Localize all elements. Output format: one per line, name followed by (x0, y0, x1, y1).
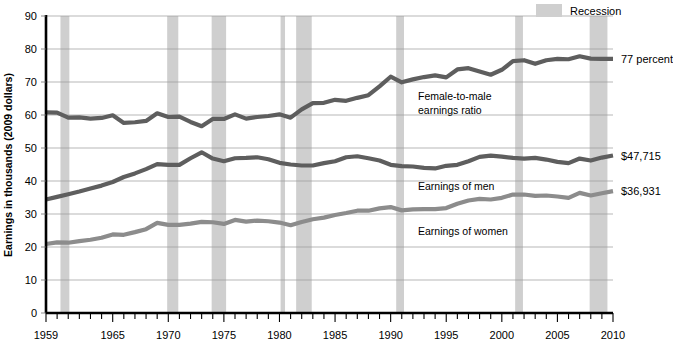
legend-label-recession: Recession (570, 5, 621, 17)
end-labels-group: 77 percent$47,715$36,931 (621, 53, 673, 197)
ratio-end-label: 77 percent (621, 53, 673, 65)
y-ticks-group: 0102030405060708090 (25, 10, 46, 319)
legend-group: Recession (536, 4, 621, 17)
y-tick-label: 80 (25, 43, 37, 55)
ratio-annotation: Female-to-male (418, 90, 492, 102)
series-line-men (46, 152, 613, 199)
y-axis-title: Earnings in thousands (2009 dollars) (2, 73, 14, 257)
series-group (46, 56, 613, 244)
y-tick-label: 20 (25, 241, 37, 253)
y-tick-label: 90 (25, 10, 37, 22)
x-tick-label: 1970 (156, 329, 180, 341)
x-tick-label: 2000 (490, 329, 514, 341)
series-line-women (46, 191, 613, 244)
x-tick-label: 1995 (434, 329, 458, 341)
x-tick-label: 1985 (323, 329, 347, 341)
chart-canvas: 0102030405060708090195919651970197519801… (0, 0, 673, 356)
series-line-ratio (46, 56, 613, 126)
x-tick-label: 1959 (34, 329, 58, 341)
x-tick-label: 2010 (601, 329, 625, 341)
gridlines-group (46, 16, 613, 280)
y-tick-label: 10 (25, 274, 37, 286)
women-annotation: Earnings of women (418, 225, 508, 237)
x-tick-label: 1975 (212, 329, 236, 341)
legend-swatch-recession (536, 4, 562, 17)
recession-band (60, 16, 69, 313)
earnings-chart: 0102030405060708090195919651970197519801… (0, 0, 673, 356)
ratio-annotation-line2: earnings ratio (418, 104, 482, 116)
x-tick-label: 1980 (267, 329, 291, 341)
men-annotation: Earnings of men (418, 180, 495, 192)
x-tick-label: 1965 (100, 329, 124, 341)
y-tick-label: 60 (25, 109, 37, 121)
recession-band (212, 16, 226, 313)
x-ticks-group: 1959196519701975198019851990199520002005… (34, 313, 625, 341)
men-end-label: $47,715 (621, 150, 661, 162)
y-tick-label: 50 (25, 142, 37, 154)
women-end-label: $36,931 (621, 185, 661, 197)
y-tick-label: 0 (31, 307, 37, 319)
y-tick-label: 30 (25, 208, 37, 220)
x-tick-label: 2005 (545, 329, 569, 341)
y-tick-label: 70 (25, 76, 37, 88)
y-tick-label: 40 (25, 175, 37, 187)
x-tick-label: 1990 (378, 329, 402, 341)
